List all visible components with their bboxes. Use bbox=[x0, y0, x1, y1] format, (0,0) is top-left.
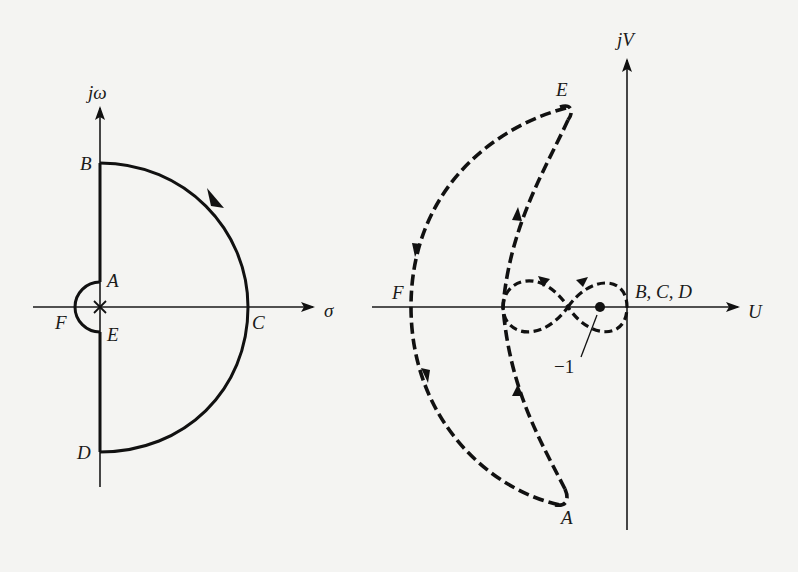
nyquist-inner-lower-branch bbox=[503, 307, 565, 489]
u-axis-label: U bbox=[748, 301, 763, 322]
point-label-e: E bbox=[555, 79, 568, 100]
s-plane-diagram: jω σ B A F E C D bbox=[33, 82, 334, 487]
point-label-c: C bbox=[252, 312, 265, 333]
point-label-b: B bbox=[80, 153, 92, 174]
direction-arrow-icon bbox=[207, 188, 224, 208]
point-label-e: E bbox=[106, 324, 119, 345]
critical-point-leader-line bbox=[581, 315, 597, 357]
point-label-d: D bbox=[76, 442, 91, 463]
sigma-axis-label: σ bbox=[324, 300, 334, 321]
nyquist-inner-upper-branch bbox=[503, 120, 568, 307]
jv-axis-label: jV bbox=[614, 29, 636, 50]
point-label-a: A bbox=[559, 507, 573, 528]
critical-point-marker bbox=[595, 302, 605, 312]
point-label-f: F bbox=[391, 282, 404, 303]
critical-point-label: −1 bbox=[554, 356, 574, 377]
nyquist-diagram: jω σ B A F E C D bbox=[0, 0, 798, 572]
nyquist-plane-diagram: jV U E F A B, C, D −1 bbox=[372, 29, 763, 530]
point-label-f: F bbox=[54, 312, 67, 333]
jw-axis-label: jω bbox=[85, 82, 107, 103]
point-label-a: A bbox=[105, 270, 119, 291]
point-label-bcd: B, C, D bbox=[635, 281, 692, 302]
direction-arrow-icon bbox=[576, 277, 588, 287]
direction-arrow-icon bbox=[512, 207, 522, 221]
direction-arrow-icon bbox=[512, 384, 523, 396]
